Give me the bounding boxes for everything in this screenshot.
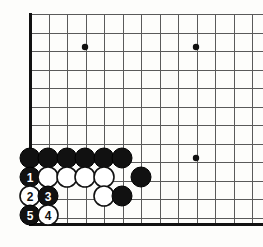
board-grid xyxy=(30,14,263,224)
stone-black[interactable] xyxy=(131,167,151,187)
stone-body xyxy=(57,167,77,187)
stone-white[interactable] xyxy=(75,167,95,187)
star-point-upper-right xyxy=(193,44,199,50)
stone-move-number: 4 xyxy=(45,209,52,223)
stone-black[interactable] xyxy=(112,148,132,168)
stone-move-number: 5 xyxy=(27,209,34,223)
stone-black[interactable] xyxy=(57,148,77,168)
stone-white-4[interactable]: 4 xyxy=(38,205,58,225)
stone-black[interactable] xyxy=(75,148,95,168)
stone-move-number: 3 xyxy=(45,190,52,204)
stone-body xyxy=(112,186,132,206)
stone-black[interactable] xyxy=(94,148,114,168)
stone-white-2[interactable]: 2 xyxy=(20,186,40,206)
star-point-upper-left xyxy=(82,44,88,50)
stone-body xyxy=(20,148,40,168)
stone-body xyxy=(131,167,151,187)
stone-body xyxy=(38,148,58,168)
stone-body xyxy=(75,148,95,168)
stone-body xyxy=(57,148,77,168)
stone-black[interactable] xyxy=(20,148,40,168)
board-border xyxy=(29,13,263,225)
stone-black-3[interactable]: 3 xyxy=(38,186,58,206)
stone-white[interactable] xyxy=(38,167,58,187)
stone-body xyxy=(94,167,114,187)
stone-white[interactable] xyxy=(94,186,114,206)
stone-white[interactable] xyxy=(94,167,114,187)
stone-body xyxy=(94,148,114,168)
stone-move-number: 1 xyxy=(27,171,34,185)
stone-body xyxy=(94,186,114,206)
stone-white[interactable] xyxy=(57,167,77,187)
go-diagram: 12354 xyxy=(0,0,263,247)
board-star-points xyxy=(82,44,199,161)
stone-black[interactable] xyxy=(112,186,132,206)
stone-black-1[interactable]: 1 xyxy=(20,167,40,187)
stone-black-5[interactable]: 5 xyxy=(20,205,40,225)
stone-black[interactable] xyxy=(38,148,58,168)
star-point-lower-right xyxy=(193,155,199,161)
stone-move-number: 2 xyxy=(27,190,34,204)
go-board: 12354 xyxy=(0,0,263,247)
stone-body xyxy=(38,167,58,187)
stone-body xyxy=(112,148,132,168)
stone-body xyxy=(75,167,95,187)
board-stones: 12354 xyxy=(20,148,151,225)
